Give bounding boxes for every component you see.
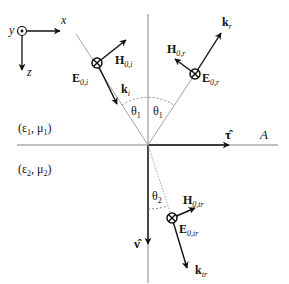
transmitted-ray-line	[148, 145, 172, 218]
y-axis-dot-icon	[21, 30, 24, 33]
incident-H-label: H0,i	[115, 53, 133, 69]
incident-E-into-page-icon	[92, 58, 102, 68]
reflected-E-label: E0,r	[202, 71, 220, 87]
reflected-angle-label: θ1	[153, 104, 163, 120]
incident-angle-label: θ1	[131, 104, 141, 120]
wave-interface-diagram: x y z τ̂ A ν̂ (ε1, μ1) (ε2, μ2) H0,i E0,…	[0, 0, 289, 284]
theta2-arc	[148, 206, 168, 209]
reflected-E-into-page-icon	[190, 69, 200, 79]
z-axis-label: z	[26, 65, 32, 79]
coordinate-axes: x y z	[8, 13, 67, 79]
lower-medium-label: (ε2, μ2)	[18, 162, 51, 178]
transmitted-wave: θ2 H0,tr E0,tr ktr	[148, 145, 208, 279]
incident-k-arrow	[97, 63, 117, 104]
transmitted-E-into-page-icon	[167, 213, 177, 223]
upper-medium-label: (ε1, μ1)	[18, 121, 51, 137]
incident-E-label: E0,i	[72, 71, 88, 87]
incident-wave: H0,i E0,i ki	[72, 34, 148, 145]
transmitted-angle-label: θ2	[152, 189, 162, 205]
tangent-label: τ̂	[225, 127, 234, 142]
x-axis-label: x	[60, 13, 67, 27]
reflected-k-label: kr	[222, 15, 233, 31]
normal-label: ν̂	[133, 236, 143, 251]
reflected-H-label: H0,r	[167, 42, 186, 58]
incident-k-label: ki	[121, 82, 130, 98]
interface-label: A	[259, 127, 268, 142]
y-axis-label: y	[8, 23, 15, 37]
reflected-wave: kr H0,r E0,r	[148, 15, 233, 145]
transmitted-E-label: E0,tr	[179, 222, 199, 238]
transmitted-H-label: H0,tr	[183, 193, 205, 209]
transmitted-k-label: ktr	[195, 263, 208, 279]
reflected-k-arrow	[195, 33, 221, 74]
